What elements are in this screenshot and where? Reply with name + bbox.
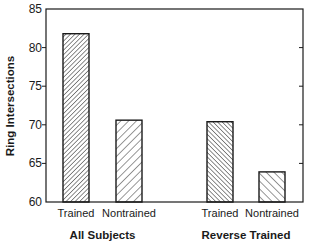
x-category-label: Trained	[58, 207, 95, 219]
y-tick-label: 75	[29, 79, 43, 93]
bar-nontrained-all-subjects	[116, 120, 142, 202]
x-group-label: Reverse Trained	[202, 229, 291, 241]
x-category-label: Trained	[202, 207, 239, 219]
y-tick-label: 85	[29, 2, 43, 16]
y-tick-label: 70	[29, 118, 43, 132]
bars-layer	[63, 34, 285, 202]
x-group-label: All Subjects	[70, 229, 136, 241]
y-tick-label: 65	[29, 156, 43, 170]
y-tick-label: 60	[29, 195, 43, 209]
x-category-label: Nontrained	[102, 207, 156, 219]
bar-trained-reverse-trained	[207, 122, 233, 202]
bar-trained-all-subjects	[63, 34, 89, 202]
x-category-label: Nontrained	[245, 207, 299, 219]
y-tick-label: 80	[29, 41, 43, 55]
bar-chart: 606570758085 TrainedNontrainedTrainedNon…	[0, 0, 309, 245]
y-axis-label: Ring Intersections	[4, 56, 16, 156]
x-axis-labels: TrainedNontrainedTrainedNontrainedAll Su…	[58, 207, 299, 241]
bar-nontrained-reverse-trained	[259, 172, 285, 202]
